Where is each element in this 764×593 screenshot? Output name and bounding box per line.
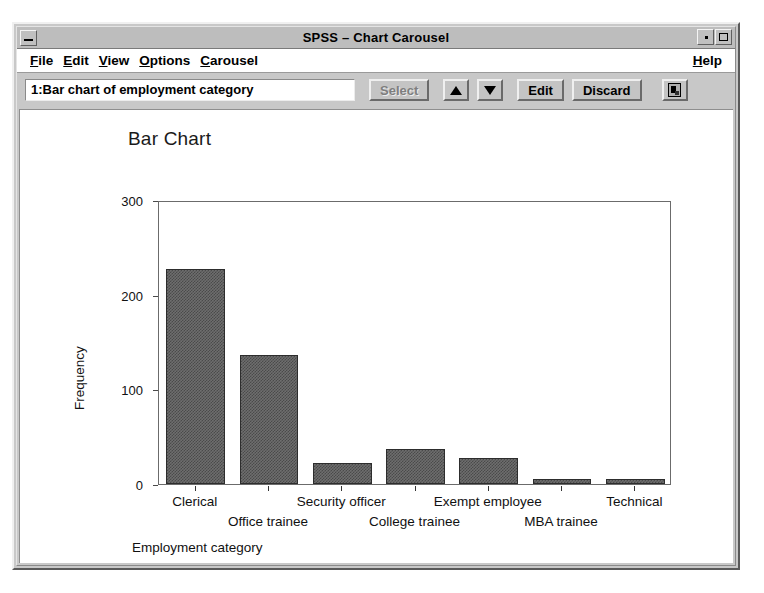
discard-button[interactable]: Discard	[572, 79, 642, 101]
bar-series	[159, 202, 670, 484]
menu-item-carousel[interactable]: Carousel	[195, 53, 263, 68]
x-tick-label: MBA trainee	[524, 514, 598, 529]
x-tick-mark	[488, 486, 489, 491]
bar	[313, 463, 372, 484]
menu-mnemonic: E	[63, 53, 72, 68]
menu-rest: elp	[702, 53, 722, 68]
previous-chart-button[interactable]	[443, 79, 469, 101]
menu-mnemonic: F	[30, 53, 38, 68]
x-tick-label: Security officer	[297, 494, 386, 509]
x-tick-mark	[268, 486, 269, 491]
x-tick-label: Technical	[606, 494, 662, 509]
bar	[240, 355, 299, 484]
toolbar: 1:Bar chart of employment category Selec…	[17, 73, 735, 107]
menu-rest: iew	[108, 53, 130, 68]
plot-area	[158, 201, 671, 485]
chart-canvas: Bar Chart 0100200300 Frequency Employmen…	[19, 109, 733, 563]
y-axis-ticks: 0100200300	[108, 110, 153, 563]
x-tick-label: College trainee	[369, 514, 460, 529]
bar	[386, 449, 445, 484]
restore-glyph	[705, 36, 708, 39]
edit-button[interactable]: Edit	[517, 79, 564, 101]
menu-item-view[interactable]: View	[94, 53, 135, 68]
menu-mnemonic: C	[200, 53, 210, 68]
x-axis-title: Employment category	[132, 540, 263, 555]
chart-name-input[interactable]: 1:Bar chart of employment category	[25, 79, 355, 101]
bar	[166, 269, 225, 484]
menu-mnemonic: V	[99, 53, 108, 68]
screen: SPSS – Chart Carousel File Edit View Opt…	[0, 0, 764, 593]
x-tick-mark	[561, 486, 562, 491]
window-restore-icon[interactable]	[697, 29, 714, 45]
window-title: SPSS – Chart Carousel	[17, 27, 735, 48]
y-tick-mark	[153, 485, 158, 486]
y-tick-label: 100	[121, 383, 143, 398]
x-tick-mark	[341, 486, 342, 491]
menu-rest: dit	[72, 53, 89, 68]
menu-item-options[interactable]: Options	[134, 53, 195, 68]
x-tick-label: Clerical	[172, 494, 217, 509]
select-button[interactable]: Select	[369, 79, 429, 101]
menubar: File Edit View Options Carousel Help	[17, 49, 735, 73]
y-tick-label: 300	[121, 194, 143, 209]
window-inner: SPSS – Chart Carousel File Edit View Opt…	[16, 26, 736, 566]
y-tick-label: 200	[121, 288, 143, 303]
spss-chart-carousel-window: SPSS – Chart Carousel File Edit View Opt…	[12, 22, 740, 570]
x-tick-mark	[415, 486, 416, 491]
y-tick-label: 0	[136, 478, 143, 493]
menu-item-file[interactable]: File	[25, 53, 58, 68]
document-icon	[668, 83, 681, 97]
minimize-glyph	[24, 39, 33, 41]
x-tick-label: Office trainee	[228, 514, 308, 529]
menu-rest: arousel	[210, 53, 258, 68]
menu-rest: ptions	[150, 53, 191, 68]
x-tick-label: Exempt employee	[434, 494, 542, 509]
menu-item-edit[interactable]: Edit	[58, 53, 94, 68]
menu-item-help[interactable]: Help	[688, 53, 727, 68]
export-chart-button[interactable]	[662, 79, 688, 101]
triangle-up-icon	[450, 86, 462, 95]
next-chart-button[interactable]	[477, 79, 503, 101]
maximize-glyph	[719, 33, 728, 41]
y-axis-title: Frequency	[72, 346, 87, 410]
x-tick-mark	[195, 486, 196, 491]
triangle-down-icon	[484, 86, 496, 95]
bar	[606, 479, 665, 484]
menu-mnemonic: O	[139, 53, 150, 68]
x-tick-mark	[634, 486, 635, 491]
window-minimize-icon[interactable]	[20, 30, 37, 46]
window-maximize-icon[interactable]	[715, 29, 732, 45]
bar	[459, 458, 518, 485]
titlebar[interactable]: SPSS – Chart Carousel	[17, 27, 735, 49]
menu-rest: ile	[38, 53, 53, 68]
bar	[533, 479, 592, 484]
window-controls	[697, 29, 732, 45]
